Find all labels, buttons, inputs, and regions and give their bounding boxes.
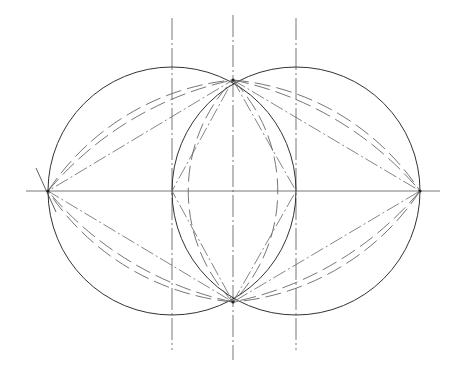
point-top	[231, 78, 234, 81]
geometric-construction-drawing	[0, 0, 464, 370]
drawing-canvas	[0, 0, 464, 370]
left-tick-mark	[36, 168, 56, 212]
point-right	[418, 189, 421, 192]
point-left	[46, 189, 49, 192]
point-bottom	[231, 300, 234, 303]
